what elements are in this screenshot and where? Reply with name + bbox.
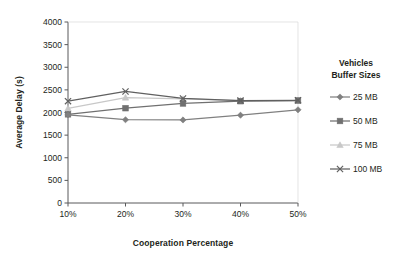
y-tick-label: 0 (57, 198, 62, 208)
legend-title-line2: Buffer Sizes (331, 70, 380, 80)
marker-square-1 (123, 105, 129, 111)
legend-label: 50 MB (353, 116, 378, 126)
x-tick-label: 50% (289, 209, 306, 219)
x-tick-label: 10% (59, 209, 76, 219)
marker-diamond-1 (122, 117, 128, 123)
marker-diamond-4 (295, 107, 301, 113)
series-25-mb (65, 107, 301, 123)
legend-title-line1: Vehicles (339, 58, 373, 68)
y-tick-label: 500 (48, 175, 62, 185)
y-tick-label: 4000 (43, 17, 62, 27)
y-tick-label: 1000 (43, 153, 62, 163)
legend-label: 75 MB (353, 140, 378, 150)
marker-diamond-2 (180, 117, 186, 123)
y-tick-label: 3500 (43, 40, 62, 50)
marker-diamond-legend (337, 94, 343, 100)
y-tick-label: 2000 (43, 108, 62, 118)
chart-container: 0500100015002000250030003500400010%20%30… (0, 0, 405, 254)
y-tick-label: 2500 (43, 85, 62, 95)
x-tick-label: 30% (174, 209, 191, 219)
legend-label: 100 MB (353, 164, 383, 174)
legend-item-50-mb[interactable]: 50 MB (330, 116, 378, 126)
marker-square-legend (337, 118, 343, 124)
line-chart: 0500100015002000250030003500400010%20%30… (0, 0, 405, 254)
x-axis-title: Cooperation Percentage (133, 238, 234, 248)
legend-item-25-mb[interactable]: 25 MB (330, 92, 378, 102)
legend-item-100-mb[interactable]: 100 MB (330, 164, 383, 174)
y-axis-title: Average Delay (s) (14, 76, 24, 149)
legend-item-75-mb[interactable]: 75 MB (330, 140, 378, 150)
x-tick-label: 40% (232, 209, 249, 219)
x-tick-label: 20% (117, 209, 134, 219)
y-tick-label: 1500 (43, 130, 62, 140)
marker-diamond-3 (237, 112, 243, 118)
y-tick-label: 3000 (43, 62, 62, 72)
marker-square-2 (180, 101, 186, 107)
legend-label: 25 MB (353, 92, 378, 102)
